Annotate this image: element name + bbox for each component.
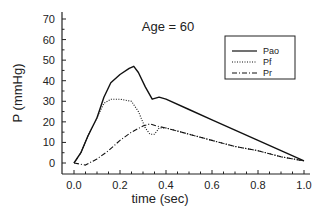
x-tick-label: 1.0 (296, 179, 311, 191)
y-tick-label: 30 (43, 95, 55, 107)
y-tick-label: 40 (43, 75, 55, 87)
x-ticks: 0.00.20.40.60.81.0 (66, 170, 311, 191)
legend-label-pao: Pao (263, 46, 279, 56)
legend-label-pf: Pf (263, 57, 272, 67)
x-tick-label: 0.6 (204, 179, 219, 191)
chart-title: Age = 60 (142, 19, 194, 34)
y-tick-label: 0 (49, 157, 55, 169)
y-tick-label: 50 (43, 54, 55, 66)
x-axis-title: time (sec) (131, 191, 188, 206)
y-tick-label: 20 (43, 116, 55, 128)
x-tick-label: 0.4 (158, 179, 173, 191)
chart: Age = 60 010203040506070 0.00.20.40.60.8… (0, 0, 331, 222)
y-tick-label: 10 (43, 136, 55, 148)
x-tick-label: 0.2 (112, 179, 127, 191)
series-line-pr (74, 124, 304, 165)
series-line-pao (74, 66, 304, 163)
x-tick-label: 0.0 (66, 179, 81, 191)
y-axis-title: P (mmHg) (10, 64, 25, 123)
legend-label-pr: Pr (263, 68, 272, 78)
x-tick-label: 0.8 (250, 179, 265, 191)
legend: Pao Pf Pr (225, 36, 295, 79)
y-tick-label: 70 (43, 13, 55, 25)
series-lines (74, 66, 304, 165)
y-tick-label: 60 (43, 34, 55, 46)
